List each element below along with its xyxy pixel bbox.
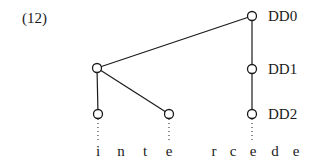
node-label-dd1: DD1 (268, 62, 297, 77)
node-leaf-e (165, 110, 174, 119)
letter-9: e (293, 144, 300, 159)
letter-4: e (166, 144, 173, 159)
edge-left-leaf-e (97, 68, 169, 114)
letter-3: t (143, 144, 147, 159)
node-dd1 (248, 65, 257, 74)
letter-7: e (250, 144, 257, 159)
node-dd0 (248, 12, 257, 21)
letter-6: c (230, 144, 237, 159)
tree-diagram (0, 0, 310, 164)
letter-1: i (96, 144, 100, 159)
node-label-dd2: DD2 (268, 107, 297, 122)
node-left-branch (93, 64, 102, 73)
letter-8: d (271, 144, 279, 159)
edge-dd0-left (97, 16, 252, 68)
edge-left-leaf-i (97, 68, 98, 114)
node-leaf-i (94, 110, 103, 119)
letter-2: n (117, 144, 125, 159)
node-label-dd0: DD0 (268, 9, 297, 24)
node-dd2 (248, 110, 257, 119)
letter-5: r (212, 144, 217, 159)
